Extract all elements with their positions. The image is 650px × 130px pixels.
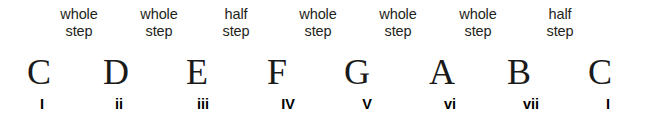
scale-degree-numeral: iii xyxy=(197,96,209,113)
note-letters-row: CDEFGABC xyxy=(0,52,650,94)
step-label-unit: step xyxy=(546,23,573,40)
note-letter: G xyxy=(344,52,370,92)
step-label-unit: step xyxy=(60,23,97,40)
note-letter: A xyxy=(429,52,455,92)
step-label-unit: step xyxy=(299,23,336,40)
scale-degree-numeral: I xyxy=(40,96,44,113)
step-label-size: half xyxy=(546,6,573,23)
step-label-unit: step xyxy=(222,23,249,40)
note-letter: E xyxy=(186,52,208,92)
step-labels-row: wholestepwholestephalfstepwholestepwhole… xyxy=(0,0,650,52)
scale-degree-numeral: IV xyxy=(281,96,295,113)
step-label: halfstep xyxy=(546,6,573,40)
step-label: halfstep xyxy=(222,6,249,40)
step-label: wholestep xyxy=(299,6,336,40)
step-label: wholestep xyxy=(459,6,496,40)
scale-degree-numeral: ii xyxy=(115,96,123,113)
step-label-size: half xyxy=(222,6,249,23)
step-label-size: whole xyxy=(379,6,416,23)
roman-numerals-row: IiiiiiIVVviviiI xyxy=(0,96,650,130)
scale-degree-numeral: I xyxy=(606,96,610,113)
scale-degree-numeral: vi xyxy=(444,96,456,113)
step-label: wholestep xyxy=(60,6,97,40)
step-label-size: whole xyxy=(299,6,336,23)
step-label-unit: step xyxy=(140,23,177,40)
step-label: wholestep xyxy=(379,6,416,40)
note-letter: B xyxy=(507,52,531,92)
step-label-unit: step xyxy=(379,23,416,40)
note-letter: C xyxy=(27,52,51,92)
note-letter: D xyxy=(103,52,129,92)
step-label-unit: step xyxy=(459,23,496,40)
step-label: wholestep xyxy=(140,6,177,40)
step-label-size: whole xyxy=(459,6,496,23)
scale-degree-numeral: vii xyxy=(523,96,539,113)
scale-diagram: wholestepwholestephalfstepwholestepwhole… xyxy=(0,0,650,130)
step-label-size: whole xyxy=(140,6,177,23)
note-letter: F xyxy=(267,52,287,92)
note-letter: C xyxy=(588,52,612,92)
scale-degree-numeral: V xyxy=(362,96,372,113)
step-label-size: whole xyxy=(60,6,97,23)
